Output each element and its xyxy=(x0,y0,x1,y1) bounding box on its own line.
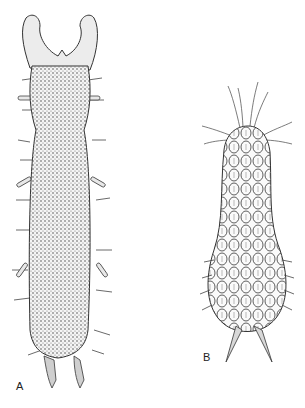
figure xyxy=(0,0,305,408)
panel-label-b: B xyxy=(203,351,210,363)
specimen-b xyxy=(200,82,294,362)
specimen-illustration xyxy=(0,0,305,408)
panel-label-a: A xyxy=(16,380,23,392)
specimen-a xyxy=(12,15,112,388)
